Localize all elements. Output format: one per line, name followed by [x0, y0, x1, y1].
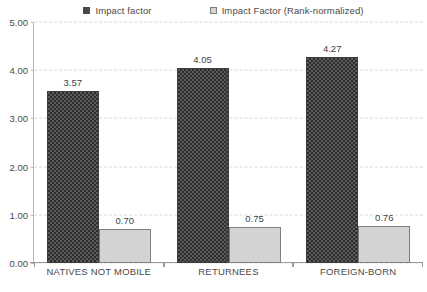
- plot-area: 0.001.002.003.004.005.00 3.570.704.050.7…: [0, 22, 427, 270]
- y-tick-label: 1.00: [10, 209, 29, 220]
- bars-area: 3.570.704.050.754.270.76: [34, 22, 423, 263]
- y-tick-label: 4.00: [10, 65, 29, 76]
- y-tick-label: 2.00: [10, 161, 29, 172]
- y-tick-label: 5.00: [10, 17, 29, 28]
- bar-impact-factor-rank-normalized: [229, 227, 281, 263]
- chart-legend: Impact factor Impact Factor (Rank-normal…: [0, 0, 427, 20]
- x-category-label: FOREIGN-BORN: [293, 266, 423, 277]
- bar-value-label: 4.05: [193, 54, 212, 65]
- bar-impact-factor: [306, 57, 358, 263]
- bar-impact-factor-rank-normalized: [99, 229, 151, 263]
- x-category-label: NATIVES NOT MOBILE: [34, 266, 164, 277]
- bar-value-label: 4.27: [323, 43, 342, 54]
- bar-value-label: 3.57: [64, 77, 83, 88]
- bar-impact-factor-rank-normalized: [358, 226, 410, 263]
- bar-value-label: 0.70: [116, 215, 135, 226]
- bar-impact-factor: [47, 91, 99, 263]
- bar-group: 4.270.76: [293, 22, 423, 263]
- y-tick-label: 0.00: [10, 258, 29, 269]
- legend-entry-impact-factor: Impact factor: [83, 5, 151, 16]
- bar-chart: Impact factor Impact Factor (Rank-normal…: [0, 0, 427, 292]
- bar-value-label: 0.75: [245, 213, 264, 224]
- legend-entry-impact-factor-rank-normalized: Impact Factor (Rank-normalized): [210, 5, 364, 16]
- legend-label-impact-factor: Impact factor: [95, 5, 151, 16]
- patterned-square-icon: [83, 7, 90, 14]
- x-category-label: RETURNEES: [164, 266, 294, 277]
- bar-impact-factor: [177, 68, 229, 263]
- y-tick-label: 3.00: [10, 113, 29, 124]
- outlined-square-icon: [210, 7, 217, 14]
- bar-group: 4.050.75: [164, 22, 294, 263]
- x-axis: NATIVES NOT MOBILERETURNEESFOREIGN-BORN: [34, 266, 423, 277]
- legend-label-impact-factor-rank-normalized: Impact Factor (Rank-normalized): [222, 5, 364, 16]
- y-axis: 0.001.002.003.004.005.00: [0, 22, 30, 264]
- bar-group: 3.570.70: [34, 22, 164, 263]
- bar-value-label: 0.76: [375, 212, 394, 223]
